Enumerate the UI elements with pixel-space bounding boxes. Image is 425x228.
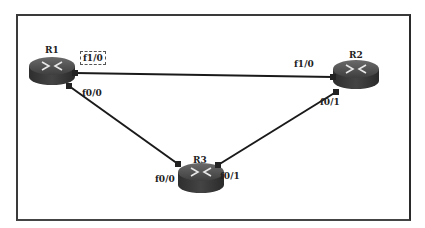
port-r1-f0-0[interactable] [66,83,72,89]
topology-canvas [0,0,425,228]
port-r2-f0-1[interactable] [333,89,339,95]
router-label-r3: R3 [193,155,207,165]
link-r1-r2[interactable] [75,73,333,77]
interface-label-r2-f1-0: f1/0 [294,59,314,69]
link-r2-r3[interactable] [218,92,336,165]
interface-label-r3-f0-0: f0/0 [155,174,175,184]
port-r3-f0-0[interactable] [175,161,181,167]
interface-label-r1-f1-0[interactable]: f1/0 [80,51,106,65]
port-r1-f1-0[interactable] [72,70,78,76]
interface-label-r1-f0-0: f0/0 [82,88,102,98]
router-r2[interactable] [333,60,379,89]
interface-label-r2-f0-1: f0/1 [320,97,340,107]
interface-label-r3-f0-1: f0/1 [220,171,240,181]
port-r3-f0-1[interactable] [215,162,221,168]
port-r2-f1-0[interactable] [330,74,336,80]
router-r1[interactable] [29,57,75,85]
router-label-r2: R2 [349,50,363,60]
router-label-r1: R1 [45,45,59,55]
